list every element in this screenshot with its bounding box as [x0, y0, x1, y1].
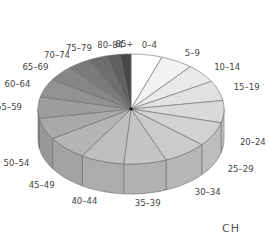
- slice-label: 30–34: [195, 187, 221, 197]
- slice-label: 0–4: [142, 40, 157, 50]
- slice-label: 40–44: [71, 196, 97, 206]
- pie-chart-3d: 0–45–910–1415–1920–2425–2930–3435–3940–4…: [0, 0, 269, 242]
- pie-center: [129, 107, 132, 110]
- slice-side-35-39: [124, 160, 166, 194]
- slice-label: 25–29: [228, 164, 254, 174]
- slice-label: 55–59: [0, 102, 22, 112]
- slice-label: 50–54: [4, 158, 30, 168]
- slice-label: 60–64: [5, 79, 31, 89]
- country-label: CH: [222, 222, 240, 235]
- slice-label: 75–79: [66, 43, 92, 53]
- slice-label: 15–19: [234, 82, 260, 92]
- slice-label: 20–24: [240, 137, 266, 147]
- slice-label: 45–49: [29, 180, 55, 190]
- slice-label: 65–69: [22, 62, 48, 72]
- slice-label: 35–39: [135, 198, 161, 208]
- slice-label: 85+: [116, 39, 134, 49]
- slice-label: 10–14: [214, 62, 240, 72]
- pie-top-slices: [38, 54, 224, 164]
- slice-label: 5–9: [185, 48, 200, 58]
